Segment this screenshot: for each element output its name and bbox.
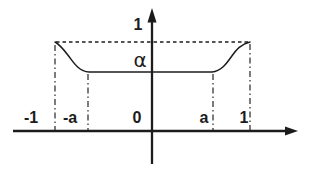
y-tick-label-alpha: α (133, 48, 146, 72)
y-tick-label-1: 1 (134, 16, 143, 33)
x-tick-label-neg-a: -a (63, 109, 77, 126)
x-tick-label-neg1: -1 (24, 109, 38, 126)
x-tick-label-0: 0 (133, 109, 142, 126)
x-tick-label-a: a (200, 109, 209, 126)
figure-background (0, 0, 309, 173)
x-tick-label-1: 1 (240, 109, 249, 126)
figure-canvas: 1 α -1 -a 0 a 1 (0, 0, 309, 173)
function-plot: 1 α -1 -a 0 a 1 (0, 0, 309, 173)
